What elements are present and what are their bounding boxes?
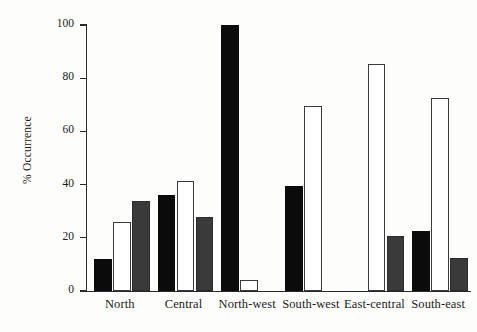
bar-group (221, 25, 277, 291)
y-axis-tick-label: 80 (48, 70, 74, 82)
y-axis-tick (80, 184, 86, 185)
bar (113, 222, 131, 291)
bar-group (349, 25, 405, 291)
y-axis-tick-label: 60 (48, 123, 74, 135)
bar (304, 106, 322, 291)
bar (132, 201, 150, 291)
bar (196, 217, 214, 291)
bar (240, 280, 258, 291)
y-axis-tick-label: 20 (48, 230, 74, 242)
bar-group (285, 25, 341, 291)
bar (387, 236, 405, 291)
x-axis-tick-label: South-east (398, 297, 477, 312)
bar-group (412, 25, 468, 291)
bar (177, 181, 195, 291)
y-axis-tick-label: 100 (48, 17, 74, 29)
bar (412, 231, 430, 291)
plot-area (88, 25, 470, 291)
bar (368, 64, 386, 291)
bar (158, 195, 176, 291)
y-axis-tick (80, 237, 86, 238)
y-axis-tick (80, 131, 86, 132)
bar (285, 186, 303, 291)
y-axis-tick-label: 0 (48, 283, 74, 295)
bar (450, 258, 468, 291)
chart-figure: % Occurrence 020406080100 NorthCentralNo… (0, 0, 477, 332)
bar (221, 25, 239, 291)
bar (431, 98, 449, 291)
bar-group (158, 25, 214, 291)
y-axis-tick-label: 40 (48, 177, 74, 189)
y-axis-title-container: % Occurrence (14, 0, 40, 300)
y-axis-tick (80, 24, 86, 25)
y-axis-tick (80, 290, 86, 291)
bar (94, 259, 112, 291)
y-axis-tick (80, 78, 86, 79)
bar-group (94, 25, 150, 291)
y-axis-title: % Occurrence (21, 116, 33, 184)
